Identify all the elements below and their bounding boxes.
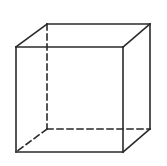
diagram-canvas [0, 0, 167, 166]
cube-wireframe [0, 0, 167, 166]
visible-edge-back-top-right-to-front-top-right [123, 24, 150, 47]
hidden-edges [16, 24, 150, 152]
hidden-edge-back-bottom-left-to-front-bottom-left [16, 129, 47, 152]
visible-edge-back-bottom-right-to-front-bottom-right [123, 129, 150, 152]
visible-edges [16, 24, 150, 152]
visible-edge-front-top-left-to-back-top-left [16, 24, 47, 47]
